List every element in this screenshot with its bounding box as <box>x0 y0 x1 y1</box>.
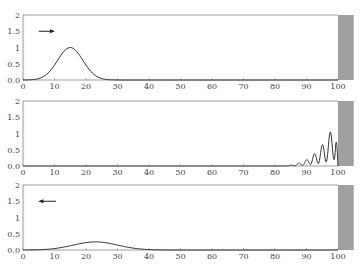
x-tick-label: 0 <box>20 82 25 91</box>
x-tick-label: 70 <box>238 82 248 91</box>
x-tick-label: 60 <box>207 168 217 177</box>
x-tick-label: 30 <box>112 252 122 261</box>
x-tick-label: 20 <box>81 252 91 261</box>
y-tick-label: 2 <box>15 97 20 106</box>
y-tick-label: 1.5 <box>7 27 20 36</box>
x-tick-label: 100 <box>330 82 345 91</box>
y-tick-label: 1 <box>15 44 20 53</box>
x-tick-label: 10 <box>49 252 59 261</box>
x-tick-label: 100 <box>330 168 345 177</box>
x-tick-label: 40 <box>144 252 154 261</box>
arrow-right-icon <box>50 29 55 33</box>
chart-canvas: 0.00.511.5201020304050607080901000.00.51… <box>0 0 364 270</box>
barrier-region <box>338 101 354 166</box>
y-tick-label: 0.0 <box>7 246 20 255</box>
x-tick-label: 60 <box>207 252 217 261</box>
x-tick-label: 0 <box>20 252 25 261</box>
y-tick-label: 2 <box>15 11 20 20</box>
x-tick-label: 20 <box>81 82 91 91</box>
x-tick-label: 70 <box>238 168 248 177</box>
x-tick-label: 40 <box>144 82 154 91</box>
x-tick-label: 80 <box>270 82 280 91</box>
y-tick-label: 1 <box>15 214 20 223</box>
x-tick-label: 0 <box>20 168 25 177</box>
x-tick-label: 30 <box>112 168 122 177</box>
arrow-left-icon <box>38 199 43 203</box>
y-tick-label: 2 <box>15 181 20 190</box>
series-curve <box>23 132 338 166</box>
y-tick-label: 0.0 <box>7 162 20 171</box>
x-tick-label: 10 <box>49 82 59 91</box>
x-tick-label: 80 <box>270 252 280 261</box>
x-tick-label: 80 <box>270 168 280 177</box>
x-tick-label: 50 <box>175 82 185 91</box>
x-tick-label: 10 <box>49 168 59 177</box>
y-tick-label: 0.5 <box>7 146 20 155</box>
x-tick-label: 90 <box>301 252 311 261</box>
series-curve <box>23 48 338 81</box>
x-tick-label: 50 <box>175 168 185 177</box>
y-tick-label: 0.5 <box>7 230 20 239</box>
x-tick-label: 100 <box>330 252 345 261</box>
y-tick-label: 1.5 <box>7 113 20 122</box>
barrier-region <box>338 185 354 250</box>
x-tick-label: 50 <box>175 252 185 261</box>
x-tick-label: 20 <box>81 168 91 177</box>
x-tick-label: 40 <box>144 168 154 177</box>
x-tick-label: 90 <box>301 82 311 91</box>
x-tick-label: 90 <box>301 168 311 177</box>
y-tick-label: 0.0 <box>7 76 20 85</box>
y-tick-label: 0.5 <box>7 60 20 69</box>
barrier-region <box>338 15 354 80</box>
y-tick-label: 1.5 <box>7 197 20 206</box>
x-tick-label: 30 <box>112 82 122 91</box>
x-tick-label: 70 <box>238 252 248 261</box>
y-tick-label: 1 <box>15 130 20 139</box>
x-tick-label: 60 <box>207 82 217 91</box>
